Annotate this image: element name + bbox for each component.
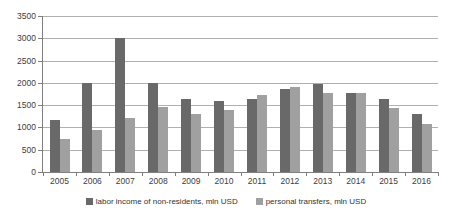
bar-labor-income-2012 — [280, 89, 290, 172]
x-axis-label-2006: 2006 — [76, 176, 108, 186]
y-axis-tick — [38, 105, 42, 106]
x-axis-label-2014: 2014 — [340, 176, 372, 186]
bar-labor-income-2011 — [247, 99, 257, 173]
bar-personal-transfers-2012 — [290, 87, 300, 172]
x-axis-tick — [208, 172, 209, 176]
bar-labor-income-2013 — [313, 84, 323, 172]
y-axis-tick — [38, 83, 42, 84]
x-axis-tick — [339, 172, 340, 176]
y-axis-tick-label: 3500 — [2, 11, 36, 21]
x-axis-tick — [405, 172, 406, 176]
legend-label-personal-transfers: personal transfers, mln USD — [266, 197, 366, 206]
bar-labor-income-2010 — [214, 101, 224, 172]
bar-personal-transfers-2016 — [422, 124, 432, 172]
legend-marker-personal-transfers — [256, 198, 263, 205]
bar-labor-income-2014 — [346, 93, 356, 172]
bar-personal-transfers-2011 — [257, 95, 267, 172]
y-axis-tick-label: 0 — [2, 167, 36, 177]
y-axis-tick-label: 1000 — [2, 122, 36, 132]
x-axis-label-2007: 2007 — [109, 176, 141, 186]
legend-item-labor-income: labor income of non-residents, mln USD — [86, 197, 238, 206]
bar-personal-transfers-2007 — [125, 118, 135, 172]
x-axis-label-2011: 2011 — [241, 176, 273, 186]
x-axis-label-2008: 2008 — [142, 176, 174, 186]
x-axis-tick — [372, 172, 373, 176]
x-axis-tick — [109, 172, 110, 176]
bar-personal-transfers-2014 — [356, 93, 366, 172]
bar-labor-income-2007 — [115, 38, 125, 172]
bar-labor-income-2006 — [82, 83, 92, 172]
bar-personal-transfers-2005 — [60, 139, 70, 172]
y-axis-tick-label: 2000 — [2, 78, 36, 88]
y-axis-tick-label: 3000 — [2, 33, 36, 43]
bar-labor-income-2005 — [50, 120, 60, 172]
bar-labor-income-2008 — [148, 83, 158, 172]
x-axis-label-2016: 2016 — [406, 176, 438, 186]
y-axis-tick — [38, 61, 42, 62]
bar-personal-transfers-2009 — [191, 114, 201, 172]
y-axis-tick — [38, 16, 42, 17]
bar-personal-transfers-2010 — [224, 110, 234, 172]
gridline — [43, 61, 438, 62]
x-axis-label-2010: 2010 — [208, 176, 240, 186]
plot-area: 0500100015002000250030003500200520062007… — [42, 16, 438, 173]
x-axis-tick — [241, 172, 242, 176]
legend: labor income of non-residents, mln USD p… — [0, 197, 452, 206]
x-axis-label-2012: 2012 — [274, 176, 306, 186]
bar-personal-transfers-2013 — [323, 93, 333, 172]
x-axis-tick — [306, 172, 307, 176]
y-axis-tick — [38, 127, 42, 128]
x-axis-tick — [43, 172, 44, 176]
x-axis-label-2005: 2005 — [44, 176, 76, 186]
x-axis-tick — [175, 172, 176, 176]
y-axis-tick-label: 2500 — [2, 56, 36, 66]
x-axis-label-2009: 2009 — [175, 176, 207, 186]
bar-labor-income-2016 — [412, 114, 422, 172]
x-axis-tick — [273, 172, 274, 176]
legend-label-labor-income: labor income of non-residents, mln USD — [96, 197, 238, 206]
y-axis-tick-label: 1500 — [2, 100, 36, 110]
y-axis-tick-label: 500 — [2, 145, 36, 155]
bar-chart: 0500100015002000250030003500200520062007… — [0, 0, 452, 219]
bar-labor-income-2009 — [181, 99, 191, 172]
x-axis-tick — [438, 172, 439, 176]
y-axis-tick — [38, 150, 42, 151]
y-axis-tick — [38, 172, 42, 173]
legend-item-personal-transfers: personal transfers, mln USD — [256, 197, 366, 206]
legend-marker-labor-income — [86, 198, 93, 205]
bar-labor-income-2015 — [379, 99, 389, 172]
x-axis-label-2015: 2015 — [373, 176, 405, 186]
x-axis-tick — [142, 172, 143, 176]
gridline — [43, 16, 438, 17]
bar-personal-transfers-2015 — [389, 108, 399, 172]
x-axis-label-2013: 2013 — [307, 176, 339, 186]
x-axis-tick — [76, 172, 77, 176]
y-axis-tick — [38, 38, 42, 39]
gridline — [43, 38, 438, 39]
bar-personal-transfers-2006 — [92, 130, 102, 172]
bar-personal-transfers-2008 — [158, 107, 168, 172]
gridline — [43, 83, 438, 84]
